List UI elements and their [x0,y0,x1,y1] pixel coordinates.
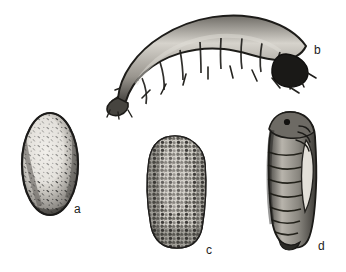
figure-label-b: b [314,44,321,56]
specimen-a-egg [22,113,78,215]
figure-label-c: c [206,244,212,256]
figure-plate: a b c d [0,0,346,272]
specimen-d-pupa [268,112,316,250]
specimen-b-larva [107,15,316,119]
pupa-eye-spot [284,119,290,125]
pupa-head [269,112,314,138]
figure-label-a: a [74,203,81,215]
figure-label-d: d [318,240,325,252]
illustration-canvas [0,0,346,272]
specimen-c-cocoon [144,132,210,252]
